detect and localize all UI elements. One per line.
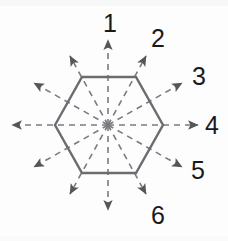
ray-label-3: 3 bbox=[192, 64, 206, 89]
ray-label-5: 5 bbox=[191, 158, 205, 183]
radial-rays-group bbox=[12, 40, 198, 210]
ray-label-1: 1 bbox=[103, 11, 117, 36]
ray-arrow-6 bbox=[108, 125, 146, 194]
ray-arrow-2 bbox=[108, 56, 146, 125]
ray-label-6: 6 bbox=[151, 203, 165, 228]
ray-label-2: 2 bbox=[151, 26, 165, 51]
ray-label-4: 4 bbox=[205, 113, 219, 138]
hexagon-radial-diagram: 1 2 3 4 5 6 bbox=[0, 0, 228, 241]
